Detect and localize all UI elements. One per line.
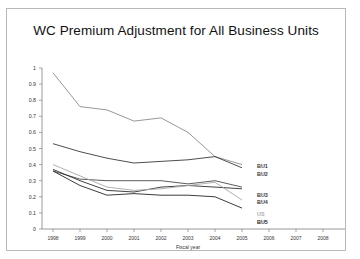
y-tick-label: 0.5: [29, 146, 36, 152]
series-lines: [53, 73, 242, 208]
chart-legend: BU1 BU2 BU3 BU4 US BU5: [257, 163, 268, 225]
x-axis-tick-labels: 1998 1999 2000 2001 2002 2003 2004 2005 …: [47, 235, 328, 241]
y-tick-label: 0.8: [29, 97, 36, 103]
x-tick-label: 2000: [101, 235, 112, 241]
x-tick-label: 2007: [290, 235, 301, 241]
y-tick-label: 0.1: [29, 210, 36, 216]
x-tick-label: 2006: [263, 235, 274, 241]
y-tick-label: 1: [33, 65, 36, 71]
y-axis-tick-labels: 0 0.1 0.2 0.3 0.4 0.5 0.6 0.7 0.8 0.9 1: [29, 65, 36, 232]
line-chart-plot: 0 0.1 0.2 0.3 0.4 0.5 0.6 0.7 0.8 0.9 1: [7, 9, 345, 250]
legend-item-us: US: [257, 211, 265, 217]
x-axis-ticks: [53, 229, 323, 232]
x-tick-label: 1999: [74, 235, 85, 241]
y-tick-label: 0.7: [29, 113, 36, 119]
y-tick-label: 0: [33, 226, 36, 232]
x-tick-label: 2001: [128, 235, 139, 241]
x-tick-label: 2004: [209, 235, 220, 241]
legend-item-bu3: BU3: [257, 192, 268, 198]
y-tick-label: 0.2: [29, 194, 36, 200]
legend-item-bu1: BU1: [257, 163, 268, 169]
y-tick-label: 0.3: [29, 178, 36, 184]
y-axis-ticks: [39, 68, 42, 229]
x-tick-label: 1998: [47, 235, 58, 241]
x-axis-title: Fiscal year: [176, 244, 201, 250]
series-line-bu3: [53, 171, 242, 187]
x-tick-label: 2008: [317, 235, 328, 241]
y-tick-label: 0.4: [29, 162, 36, 168]
y-tick-label: 0.9: [29, 81, 36, 87]
x-tick-label: 2005: [236, 235, 247, 241]
y-tick-label: 0.6: [29, 129, 36, 135]
chart-container: WC Premium Adjustment for All Business U…: [6, 8, 346, 251]
legend-item-bu2: BU2: [257, 171, 268, 177]
x-tick-label: 2003: [182, 235, 193, 241]
legend-item-bu5: BU5: [257, 219, 268, 225]
x-tick-label: 2002: [155, 235, 166, 241]
legend-item-bu4: BU4: [257, 199, 268, 205]
series-line-bu1: [53, 73, 242, 165]
